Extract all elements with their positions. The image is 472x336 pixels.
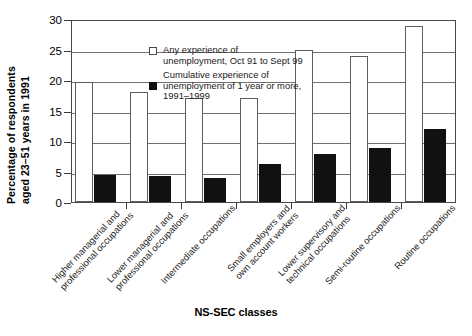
x-axis-category-label-6-line-0: Routine occupations bbox=[393, 203, 458, 272]
bar-cumulative-3 bbox=[259, 164, 282, 202]
bar-any-experience-3 bbox=[240, 98, 258, 202]
legend-swatch-open-square-icon bbox=[149, 47, 157, 55]
y-axis-tick-label-5: 5 bbox=[4, 167, 62, 179]
legend-entry2-line3: 1991–1999 bbox=[163, 91, 301, 102]
y-axis-tick-label-10: 10 bbox=[4, 136, 62, 148]
y-axis-labels: 051015202530 bbox=[0, 0, 62, 224]
bar-cumulative-1 bbox=[149, 176, 172, 202]
y-axis-tick-label-15: 15 bbox=[4, 106, 62, 118]
y-axis-tick-label-20: 20 bbox=[4, 75, 62, 87]
y-axis-tick-25 bbox=[64, 51, 71, 52]
y-axis-tick-20 bbox=[64, 81, 71, 82]
bar-cumulative-6 bbox=[424, 129, 447, 202]
y-axis-tick-5 bbox=[64, 173, 71, 174]
legend-entry2-line1: Cumulative experience of bbox=[163, 70, 301, 81]
y-axis-tick-10 bbox=[64, 142, 71, 143]
y-axis-tick-15 bbox=[64, 112, 71, 113]
y-axis-tick-30 bbox=[64, 20, 71, 21]
bar-cumulative-2 bbox=[204, 178, 227, 202]
bar-any-experience-2 bbox=[185, 98, 203, 202]
bar-cumulative-5 bbox=[369, 148, 392, 202]
bar-cumulative-4 bbox=[314, 154, 337, 202]
x-axis-category-label-6: Routine occupations bbox=[393, 203, 458, 272]
bar-any-experience-0 bbox=[75, 82, 93, 202]
bar-cumulative-0 bbox=[94, 175, 117, 203]
legend-entry-cumulative-experience-label: Cumulative experience of unemployment of… bbox=[163, 70, 301, 102]
legend-entry-any-experience: Any experience of unemployment, Oct 91 t… bbox=[149, 45, 359, 66]
legend-swatch-filled-square-icon bbox=[149, 82, 157, 90]
chart-figure: Percentage of respondents aged 23–51 yea… bbox=[0, 0, 472, 336]
x-axis-category-labels: Higher managerial andprofessional occupa… bbox=[0, 203, 472, 303]
bar-any-experience-6 bbox=[405, 26, 423, 202]
x-axis-title: NS-SEC classes bbox=[0, 306, 472, 318]
legend-entry1-line1: Any experience of bbox=[163, 45, 303, 56]
legend-entry1-line2: unemployment, Oct 91 to Sept 99 bbox=[163, 56, 303, 67]
legend-entry-any-experience-label: Any experience of unemployment, Oct 91 t… bbox=[163, 45, 303, 66]
y-axis-tick-label-25: 25 bbox=[4, 45, 62, 57]
plot-area: Any experience of unemployment, Oct 91 t… bbox=[71, 20, 456, 203]
legend-entry-cumulative-experience: Cumulative experience of unemployment of… bbox=[149, 70, 359, 102]
legend: Any experience of unemployment, Oct 91 t… bbox=[149, 45, 359, 106]
y-axis-tick-label-30: 30 bbox=[4, 14, 62, 26]
bar-any-experience-1 bbox=[130, 92, 148, 202]
